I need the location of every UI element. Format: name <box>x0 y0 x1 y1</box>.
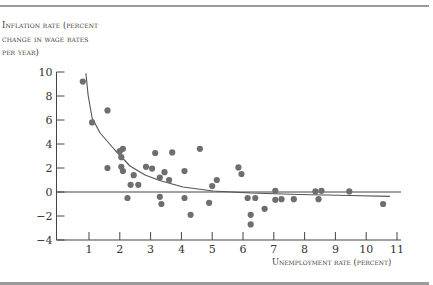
data-point <box>272 197 278 203</box>
x-tick-label: 4 <box>178 243 185 256</box>
y-tick-label: 2 <box>46 162 53 175</box>
data-point <box>120 168 126 174</box>
data-point <box>206 200 212 206</box>
data-point <box>104 107 110 113</box>
x-tick-label: 8 <box>301 243 308 256</box>
x-axis-label: Unemployment rate (percent) <box>272 257 391 267</box>
data-point <box>312 188 318 194</box>
data-point <box>152 150 158 156</box>
y-tick-label: 6 <box>46 114 53 127</box>
data-point <box>214 177 220 183</box>
data-point <box>181 168 187 174</box>
data-points <box>80 79 387 228</box>
data-point <box>169 149 175 155</box>
data-point <box>238 171 244 177</box>
phillips-curve <box>86 73 390 196</box>
data-point <box>248 212 254 218</box>
data-point <box>131 172 137 178</box>
curve-path <box>86 73 390 196</box>
data-point <box>149 166 155 172</box>
x-tick-label: 10 <box>359 243 373 256</box>
scatter-chart: −4−202468101234567891011 <box>0 0 433 285</box>
y-tick-label: −2 <box>36 210 52 223</box>
data-point <box>89 119 95 125</box>
data-point <box>252 195 258 201</box>
data-point <box>278 196 284 202</box>
x-tick-label: 5 <box>209 243 216 256</box>
y-tick-label: −4 <box>36 234 52 247</box>
data-point <box>104 165 110 171</box>
data-point <box>318 188 324 194</box>
y-tick-label: 0 <box>46 186 53 199</box>
data-point <box>346 188 352 194</box>
data-point <box>157 194 163 200</box>
x-tick-label: 2 <box>116 243 123 256</box>
data-point <box>181 195 187 201</box>
x-tick-label: 7 <box>270 243 277 256</box>
x-tick-label: 9 <box>332 243 339 256</box>
data-point <box>166 177 172 183</box>
data-point <box>188 212 194 218</box>
data-point <box>143 164 149 170</box>
data-point <box>262 206 268 212</box>
data-point <box>248 221 254 227</box>
data-point <box>291 196 297 202</box>
data-point <box>272 188 278 194</box>
data-point <box>157 175 163 181</box>
data-point <box>128 182 134 188</box>
data-point <box>80 79 86 85</box>
data-point <box>124 195 130 201</box>
x-tick-label: 11 <box>390 243 404 256</box>
data-point <box>120 146 126 152</box>
y-tick-label: 10 <box>39 66 53 79</box>
x-tick-label: 3 <box>147 243 154 256</box>
data-point <box>245 195 251 201</box>
data-point <box>235 164 241 170</box>
data-point <box>118 154 124 160</box>
data-point <box>197 146 203 152</box>
data-point <box>209 183 215 189</box>
data-point <box>380 201 386 207</box>
x-tick-label: 1 <box>86 243 93 256</box>
y-tick-label: 8 <box>46 90 53 103</box>
data-point <box>158 201 164 207</box>
axes: −4−202468101234567891011 <box>36 66 404 256</box>
x-tick-label: 6 <box>240 243 247 256</box>
y-tick-label: 4 <box>46 138 53 151</box>
data-point <box>135 182 141 188</box>
data-point <box>315 196 321 202</box>
data-point <box>161 169 167 175</box>
